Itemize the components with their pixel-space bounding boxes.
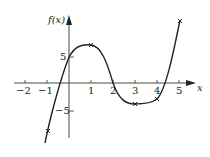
x-tick-label: 5 — [176, 86, 182, 96]
y-tick-label: −5 — [55, 106, 70, 116]
x-tick-label: −2 — [16, 86, 31, 96]
marker-point — [155, 97, 159, 101]
x-axis-arrow-icon — [186, 80, 196, 86]
y-axis-label: f(x) — [48, 15, 65, 25]
y-tick-label: 5 — [60, 52, 66, 62]
x-tick-label: 1 — [88, 86, 94, 96]
x-tick-label: −1 — [38, 86, 53, 96]
x-tick-label: 3 — [132, 86, 138, 96]
y-axis-arrow-icon — [66, 15, 72, 25]
function-graph — [0, 0, 210, 157]
x-tick-label: 4 — [154, 86, 160, 96]
x-axis-label: x — [197, 83, 203, 93]
y-ticks — [69, 57, 74, 111]
function-curve — [45, 20, 180, 143]
x-tick-label: 2 — [110, 86, 116, 96]
